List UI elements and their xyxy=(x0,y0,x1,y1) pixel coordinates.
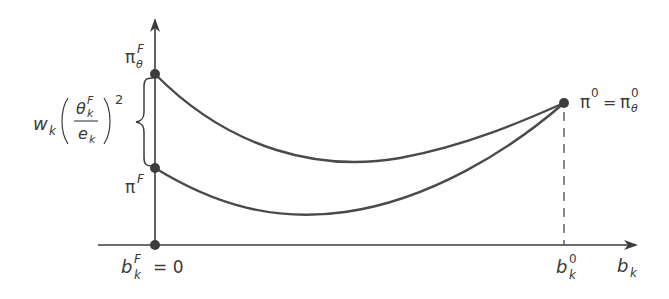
svg-text:π: π xyxy=(580,92,590,112)
svg-text:b: b xyxy=(617,255,628,276)
svg-text:b: b xyxy=(556,256,567,277)
label-bk0: b 0 k xyxy=(556,252,577,282)
svg-text:π: π xyxy=(125,47,135,67)
svg-text:e: e xyxy=(78,124,88,143)
svg-text:F: F xyxy=(137,42,145,56)
svg-text:θ: θ xyxy=(76,99,86,118)
svg-text:= 0: = 0 xyxy=(153,257,183,277)
label-pi-F: π F xyxy=(125,172,145,197)
label-bkF-zero: b F k = 0 xyxy=(121,252,183,282)
svg-text:0: 0 xyxy=(591,86,599,100)
svg-text:θ: θ xyxy=(136,58,143,71)
svg-text:k: k xyxy=(87,107,94,120)
svg-text:F: F xyxy=(87,94,94,107)
svg-text:k: k xyxy=(49,124,57,138)
svg-text:0: 0 xyxy=(569,252,577,266)
svg-text:b: b xyxy=(121,256,132,277)
label-x-axis-bk: b k xyxy=(617,255,638,280)
point-pi-F xyxy=(150,163,160,173)
label-pi-0-eq: π 0 = π 0 θ xyxy=(580,86,639,115)
profit-diagram: π F θ π F w k θ F k e k 2 π 0 = π 0 θ b … xyxy=(0,0,669,299)
svg-text:k: k xyxy=(630,266,638,280)
svg-text:w: w xyxy=(33,113,48,134)
point-origin xyxy=(150,240,160,250)
svg-text:k: k xyxy=(569,268,577,282)
svg-text:k: k xyxy=(89,133,96,146)
svg-text:π: π xyxy=(620,92,630,112)
svg-text:θ: θ xyxy=(631,102,638,115)
svg-text:F: F xyxy=(137,172,145,186)
point-pi-0 xyxy=(559,98,569,108)
label-bracket-expression: w k θ F k e k 2 xyxy=(33,92,123,146)
lower-curve xyxy=(155,103,564,215)
svg-text:=: = xyxy=(603,93,616,112)
svg-text:π: π xyxy=(125,177,135,197)
curly-brace xyxy=(136,78,153,166)
svg-text:2: 2 xyxy=(115,92,123,107)
label-pi-theta-F: π F θ xyxy=(125,42,145,71)
svg-text:F: F xyxy=(134,252,142,266)
svg-text:k: k xyxy=(134,268,142,282)
svg-text:0: 0 xyxy=(631,86,639,100)
